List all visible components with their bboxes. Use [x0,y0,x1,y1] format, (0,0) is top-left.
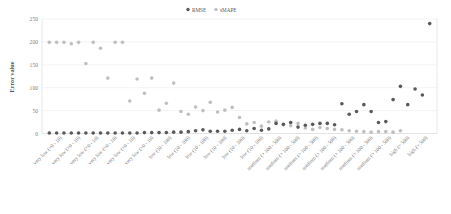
rmse-point [428,22,432,26]
smape-point [172,81,176,85]
smape-point [289,124,293,128]
rmse-point [282,123,286,127]
y-axis-title: Error value [8,61,15,92]
rmse-point [362,103,366,107]
smape-point [187,112,191,116]
rmse-point [223,129,227,133]
rmse-point [289,121,293,125]
smape-point [296,122,300,126]
x-axis-category-label: very low (>0 - 10) [32,134,64,166]
rmse-point [421,93,425,97]
x-axis-labels: very low (>0 - 10)very low (>0 - 10)very… [32,134,430,172]
rmse-point [238,128,242,132]
rmse-point [179,130,183,134]
smape-point [165,101,169,105]
rmse-point [260,128,264,132]
y-axis-ticks: 050100150200250 [30,16,39,137]
smape-point [333,128,337,132]
smape-point [347,129,351,133]
rmse-point [311,123,315,127]
y-axis-tick-label: 150 [30,62,39,68]
smape-point [238,116,242,120]
smape-point [55,41,59,45]
rmse-point [413,87,417,91]
chart-legend: RMSE sMAPE [186,7,236,13]
smape-point [267,120,271,124]
smape-point [113,41,117,45]
rmse-point [208,129,212,133]
smape-point [362,130,366,134]
rmse-point [296,125,300,129]
scatter-chart: RMSE sMAPE 050100150200250 Error value v… [0,0,451,214]
rmse-point [369,110,373,114]
rmse-point [172,130,176,134]
rmse-point [113,131,117,135]
rmse-point [69,131,73,135]
smape-point [216,110,220,114]
rmse-point [121,131,125,135]
y-axis-tick-label: 250 [30,16,39,22]
chart-canvas: RMSE sMAPE 050100150200250 Error value v… [0,0,451,214]
smape-point [377,130,381,134]
smape-point [369,130,373,134]
rmse-point [333,123,337,127]
rmse-point [62,131,66,135]
rmse-point [252,127,256,131]
smape-point [311,128,315,132]
rmse-point [216,129,220,133]
smape-point [62,41,66,45]
smape-point [91,41,95,45]
smape-point [399,129,403,133]
rmse-point [143,131,147,135]
rmse-point [245,129,249,133]
smape-point [157,108,161,112]
smape-point [179,110,183,114]
smape-point [245,122,249,126]
rmse-point [267,127,271,131]
rmse-point [230,128,234,132]
smape-point [106,76,110,80]
rmse-point [304,123,308,127]
smape-point [260,124,264,128]
rmse-point [187,130,191,134]
smape-point [99,47,103,51]
smape-point [135,77,139,81]
y-axis-tick-label: 50 [32,108,38,114]
smape-point [391,130,395,134]
rmse-point [150,131,154,135]
rmse-point [340,102,344,106]
y-axis-tick-label: 0 [35,131,38,137]
smape-point [150,76,154,80]
rmse-point [135,131,139,135]
smape-point [128,99,132,103]
rmse-point [48,131,52,135]
rmse-point [347,112,351,116]
rmse-point [77,131,81,135]
legend-marker-rmse-icon [186,8,189,11]
rmse-point [318,122,322,126]
smape-point [69,42,73,46]
smape-point [143,91,147,95]
rmse-point [355,110,359,114]
smape-point [223,108,227,112]
smape-point [208,101,212,105]
smape-point [325,127,329,131]
legend-marker-smape-icon [214,8,217,11]
rmse-point [99,131,103,135]
legend-label-smape: sMAPE [220,7,236,13]
smape-point [201,109,205,113]
rmse-point [106,131,110,135]
smape-point [77,41,81,45]
smape-point [84,62,88,66]
smape-point [252,121,256,125]
rmse-point [325,122,329,126]
smape-point [340,128,344,132]
y-axis-tick-label: 200 [30,39,39,45]
y-axis-tick-label: 100 [30,85,39,91]
smape-point [230,106,234,110]
rmse-point [377,121,381,125]
rmse-point [157,131,161,135]
rmse-point [201,128,205,132]
smape-point [318,126,322,130]
smape-point [194,105,198,109]
